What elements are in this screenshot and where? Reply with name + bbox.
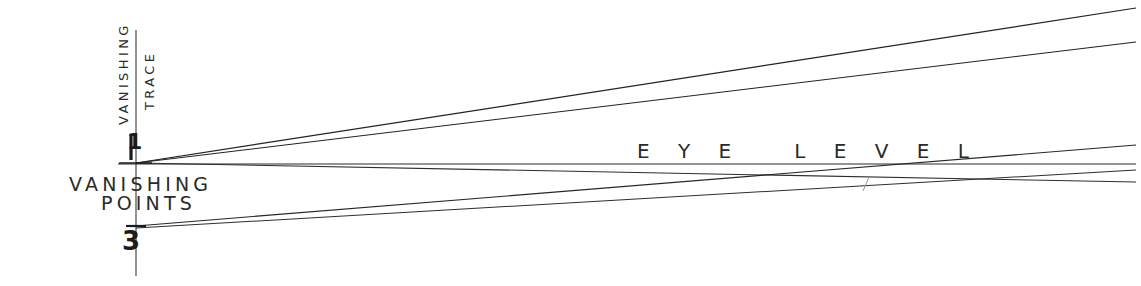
- vanishing-point-1-label: 1: [127, 131, 142, 153]
- vanishing-trace-label-word1: VANISHING: [117, 22, 130, 125]
- vanishing-point-3-label: 3: [122, 228, 140, 254]
- vanishing-points-label-line2: POINTS: [101, 194, 196, 213]
- eye-level-label: E Y E L E V E L: [637, 141, 980, 161]
- vanishing-trace-label-word2: TRACE: [143, 51, 156, 110]
- perspective-diagram: E Y E L E V E L VANISHING POINTS VANISHI…: [0, 0, 1141, 286]
